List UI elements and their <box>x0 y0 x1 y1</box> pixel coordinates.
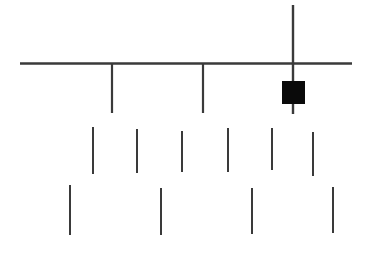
hanging-ticks-group <box>112 63 203 113</box>
line-drawing <box>0 0 370 262</box>
filled-square-group <box>282 81 305 104</box>
diagram-canvas <box>0 0 370 262</box>
bottom-row-group <box>70 185 333 235</box>
filled-square <box>282 81 305 104</box>
middle-row-group <box>93 127 313 176</box>
